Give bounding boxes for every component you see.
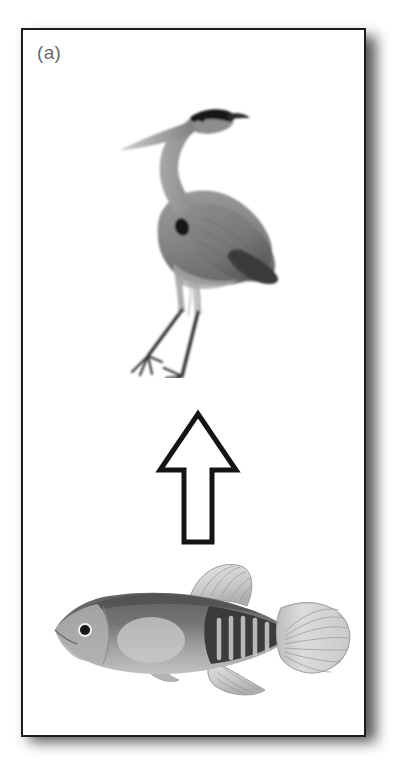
- heron-legs: [132, 276, 198, 378]
- heron-crest: [228, 113, 250, 120]
- panel-label: (a): [37, 42, 61, 64]
- figure-panel: (a): [0, 0, 403, 774]
- heron-shape: [120, 109, 278, 378]
- heron-illustration: [78, 88, 298, 378]
- fish-illustration: [41, 548, 361, 723]
- fish-shape: [55, 564, 350, 694]
- figure-panel-frame: (a): [21, 28, 366, 737]
- fish-pectoral-fin: [117, 617, 185, 663]
- heron-eye: [199, 118, 204, 122]
- arrow-up-icon: [160, 414, 236, 542]
- upward-arrow: [148, 408, 248, 548]
- fish-pupil: [80, 625, 90, 635]
